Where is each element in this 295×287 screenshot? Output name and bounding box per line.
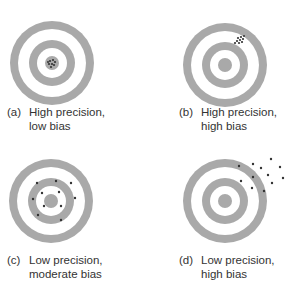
target-c	[9, 159, 93, 243]
panel-label: (a)	[7, 105, 21, 119]
panel-label: (b)	[179, 105, 193, 119]
caption-line-1: High precision,	[201, 105, 277, 119]
caption-line-2: moderate bias	[29, 267, 102, 281]
caption-a: (a) High precision, low bias	[7, 105, 147, 135]
target-d	[183, 158, 284, 243]
target-b	[183, 23, 267, 107]
caption-line-2: low bias	[29, 119, 71, 133]
caption-line-1: Low precision,	[29, 253, 103, 267]
target-a	[10, 21, 94, 105]
caption-line-1: Low precision,	[201, 253, 275, 267]
targets-diagram	[0, 0, 295, 287]
caption-line-2: high bias	[201, 119, 247, 133]
panel-label: (d)	[179, 253, 193, 267]
caption-c: (c) Low precision, moderate bias	[7, 253, 147, 283]
panel-label: (c)	[7, 253, 20, 267]
caption-b: (b) High precision, high bias	[179, 105, 294, 135]
caption-line-1: High precision,	[29, 105, 105, 119]
caption-d: (d) Low precision, high bias	[179, 253, 294, 283]
caption-line-2: high bias	[201, 267, 247, 281]
